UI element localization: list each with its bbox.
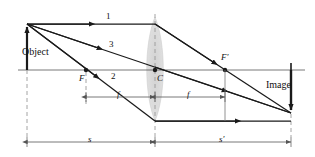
ray-3-label: 3 [109,40,114,49]
focal-near-point [84,68,88,72]
image-label: Image [266,80,291,90]
dimension-focal-left [86,92,155,102]
lens-center-label: C [157,74,163,83]
ray-convergence-lines [225,91,291,113]
ray-diagram-figure: Object Image 1 2 3 F F' C f f s s' [0,0,315,157]
focal-length-right-label: f [187,90,190,99]
focal-far-label: F' [221,53,228,62]
ray-2-label: 2 [111,72,116,81]
focal-length-left-label: f [117,90,120,99]
image-distance-label: s' [219,135,224,144]
focal-near-label: F [79,74,85,83]
lens-center-point [153,68,157,72]
dimension-focal-right [155,92,225,102]
object-distance-label: s [88,135,92,144]
ray-1-label: 1 [106,12,111,21]
object-label: Object [22,47,49,57]
